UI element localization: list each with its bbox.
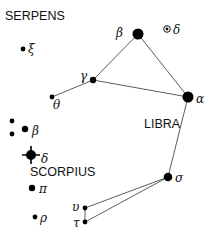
star-label-libra-tau: τ bbox=[73, 216, 80, 230]
star-label-libra-delta: δ bbox=[173, 23, 180, 37]
connection-libra-gamma-libra-alpha bbox=[93, 80, 188, 97]
star-label-scorpius-rho: ρ bbox=[39, 211, 47, 225]
star-label-libra-upsilon: υ bbox=[72, 200, 79, 214]
connection-libra-gamma-libra-beta bbox=[93, 34, 138, 80]
star-libra-tau bbox=[83, 220, 88, 225]
star-libra-gamma bbox=[90, 77, 96, 83]
star-label-libra-beta: β bbox=[115, 26, 123, 40]
star-label-serpens-xi: ξ bbox=[28, 42, 36, 56]
star-libra-delta bbox=[164, 26, 171, 33]
star-label-scorpius-delta: δ bbox=[41, 152, 48, 166]
star-scorpius-unnamed-2 bbox=[10, 132, 15, 137]
star-label-libra-gamma: γ bbox=[80, 69, 88, 83]
star-label-libra-sigma: σ bbox=[175, 171, 184, 185]
connection-libra-sigma-libra-upsilon bbox=[85, 177, 168, 208]
star-label-scorpius-pi: π bbox=[38, 182, 48, 196]
connection-libra-sigma-libra-tau bbox=[85, 177, 168, 222]
star-label-libra-theta: θ bbox=[53, 98, 61, 112]
star-scorpius-unnamed-1 bbox=[10, 119, 15, 124]
star-chart: SERPENS LIBRA SCORPIUS ξ β δ γ θ α σ υ τ… bbox=[0, 0, 215, 234]
star-libra-upsilon bbox=[83, 206, 88, 211]
star-libra-alpha bbox=[183, 92, 194, 103]
star-scorpius-beta bbox=[22, 126, 28, 132]
constellation-label-serpens: SERPENS bbox=[5, 9, 65, 23]
star-label-libra-alpha: α bbox=[196, 92, 204, 106]
star-scorpius-rho bbox=[33, 215, 38, 220]
star-libra-sigma bbox=[164, 173, 173, 182]
connection-libra-alpha-libra-sigma bbox=[168, 97, 188, 177]
star-libra-beta bbox=[133, 29, 144, 40]
connection-libra-beta-libra-alpha bbox=[138, 34, 188, 97]
constellation-label-scorpius: SCORPIUS bbox=[30, 165, 95, 179]
constellation-label-libra: LIBRA bbox=[144, 117, 181, 131]
star-serpens-xi bbox=[21, 47, 26, 52]
star-scorpius-pi bbox=[29, 185, 35, 191]
labels: SERPENS LIBRA SCORPIUS ξ β δ γ θ α σ υ τ… bbox=[5, 9, 204, 230]
star-label-scorpius-beta: β bbox=[31, 124, 39, 138]
star-scorpius-delta bbox=[22, 146, 40, 164]
